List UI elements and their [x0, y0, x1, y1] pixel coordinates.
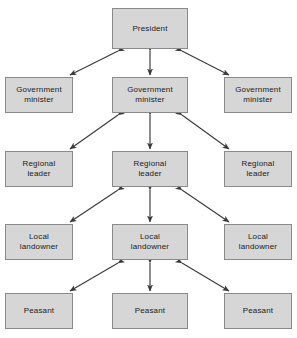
node-label: Government minister: [233, 85, 283, 105]
node-regional-right[interactable]: Regional leader: [224, 151, 292, 187]
node-regional-center[interactable]: Regional leader: [112, 151, 188, 187]
node-minister-left[interactable]: Government minister: [5, 77, 73, 113]
node-peasant-center[interactable]: Peasant: [112, 293, 188, 329]
arrow-landowner-to-peasant-right: [182, 263, 229, 291]
arrow-landowner-to-peasant-left: [70, 263, 118, 291]
node-label: President: [130, 24, 169, 34]
node-peasant-left[interactable]: Peasant: [5, 293, 73, 329]
node-landowner-left[interactable]: Local landowner: [5, 224, 73, 260]
node-label: Government minister: [125, 85, 175, 105]
node-label: Government minister: [14, 85, 64, 105]
hierarchy-diagram: President Government minister Government…: [0, 0, 297, 338]
arrow-minister-to-regional-right: [182, 115, 229, 149]
node-president-center[interactable]: President: [112, 8, 188, 49]
node-label: Local landowner: [237, 232, 279, 252]
node-landowner-center[interactable]: Local landowner: [112, 224, 188, 260]
arrow-minister-to-regional-left: [70, 115, 118, 149]
node-label: Local landowner: [129, 232, 171, 252]
node-minister-center[interactable]: Government minister: [112, 77, 188, 113]
node-label: Peasant: [241, 306, 275, 316]
node-label: Peasant: [22, 306, 56, 316]
node-landowner-right[interactable]: Local landowner: [224, 224, 292, 260]
arrow-president-to-minister-left: [70, 51, 118, 75]
node-label: Regional leader: [21, 159, 58, 179]
arrow-regional-to-landowner-left: [70, 190, 118, 222]
arrow-president-to-minister-right: [182, 51, 229, 75]
node-label: Peasant: [133, 306, 167, 316]
node-label: Local landowner: [18, 232, 60, 252]
node-label: Regional leader: [132, 159, 169, 179]
node-peasant-right[interactable]: Peasant: [224, 293, 292, 329]
arrow-regional-to-landowner-right: [182, 190, 229, 222]
node-label: Regional leader: [240, 159, 277, 179]
node-regional-left[interactable]: Regional leader: [5, 151, 73, 187]
node-minister-right[interactable]: Government minister: [224, 77, 292, 113]
